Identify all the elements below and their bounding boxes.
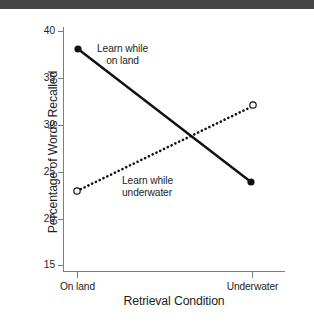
series-annotation-learn-on-land-line1: Learn while [97,43,148,55]
series-annotation-learn-underwater-line1: Learn while [122,175,173,187]
series-annotation-learn-underwater-line2: underwater [122,187,173,199]
data-point-on-land-learn-underwater [74,188,80,194]
series-line-learn-on-land [78,49,251,182]
chart-figure: 40 35 30 25 20 15 On land Underwater Per… [0,0,314,326]
x-tick-label-on-land: On land [47,281,108,292]
data-point-underwater-learn-underwater [250,102,256,108]
data-point-on-land-learn-on-land [74,45,81,52]
y-axis-title: Percentage of Words Recalled [44,32,62,272]
series-annotation-learn-on-land: Learn while on land [97,43,148,66]
data-point-underwater-learn-on-land [247,178,254,185]
series-annotation-learn-on-land-line2: on land [97,55,148,67]
x-axis-title: Retrieval Condition [63,294,285,308]
x-axis-ticks [78,272,253,278]
series-annotation-learn-underwater: Learn while underwater [122,175,173,198]
x-tick-label-underwater: Underwater [214,281,291,292]
